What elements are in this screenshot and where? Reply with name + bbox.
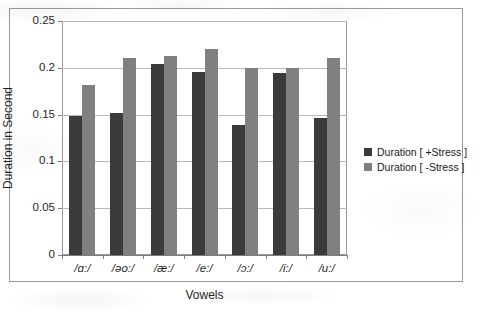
- x-tick-label: /əo:/: [112, 263, 134, 275]
- x-tick-label: /æ:/: [154, 263, 174, 275]
- x-tick-mark: [225, 255, 226, 259]
- x-tick-label: /e:/: [197, 263, 213, 275]
- x-tick-mark: [103, 255, 104, 259]
- bar-chart-figure: Duration in Second 00.050.10.150.20.25 /…: [0, 0, 486, 320]
- x-tick-label: /u:/: [319, 263, 335, 275]
- plot-area: 00.050.10.150.20.25 /ɑ://əo://æ://e://ɔ:…: [62, 21, 347, 255]
- y-tick-label: 0.15: [33, 109, 55, 121]
- bar: [164, 56, 177, 255]
- y-tick-mark: [58, 208, 62, 209]
- bar: [286, 68, 299, 255]
- x-tick-mark: [143, 255, 144, 259]
- legend-swatch-icon: [364, 163, 372, 171]
- y-tick-mark: [58, 161, 62, 162]
- x-tick-label: /i:/: [280, 263, 292, 275]
- bar: [151, 64, 164, 255]
- legend-swatch-icon: [364, 148, 372, 156]
- y-axis-title: Duration in Second: [1, 87, 15, 189]
- x-tick-mark: [306, 255, 307, 259]
- x-tick-mark: [347, 255, 348, 259]
- bar: [69, 116, 82, 255]
- y-tick-mark: [58, 21, 62, 22]
- bar: [327, 58, 340, 255]
- bar: [232, 125, 245, 255]
- y-tick-label: 0.25: [33, 15, 55, 27]
- x-axis-title: Vowels: [62, 288, 347, 302]
- legend-label: Duration [ -Stress ]: [377, 162, 465, 173]
- y-tick-mark: [58, 115, 62, 116]
- legend-item: Duration [ -Stress ]: [364, 162, 467, 173]
- legend-item: Duration [ +Stress ]: [364, 147, 467, 158]
- x-tick-label: /ɑ:/: [74, 263, 90, 275]
- bar: [192, 72, 205, 255]
- y-tick-mark: [58, 68, 62, 69]
- x-axis-line: [62, 255, 348, 256]
- x-tick-mark: [266, 255, 267, 259]
- y-tick-label: 0.05: [33, 202, 55, 214]
- bar: [123, 58, 136, 255]
- chart-legend: Duration [ +Stress ]Duration [ -Stress ]: [364, 147, 467, 176]
- bar: [205, 49, 218, 255]
- bar: [273, 73, 286, 255]
- bar: [314, 118, 327, 255]
- y-tick-label: 0.1: [39, 156, 55, 168]
- bar: [245, 68, 258, 255]
- gridline: [62, 21, 347, 22]
- y-tick-label: 0: [49, 249, 55, 261]
- y-tick-label: 0.2: [39, 62, 55, 74]
- x-tick-mark: [184, 255, 185, 259]
- x-tick-label: /ɔ:/: [238, 263, 253, 275]
- legend-label: Duration [ +Stress ]: [377, 147, 467, 158]
- bar: [110, 113, 123, 255]
- x-tick-mark: [62, 255, 63, 259]
- bar: [82, 85, 95, 255]
